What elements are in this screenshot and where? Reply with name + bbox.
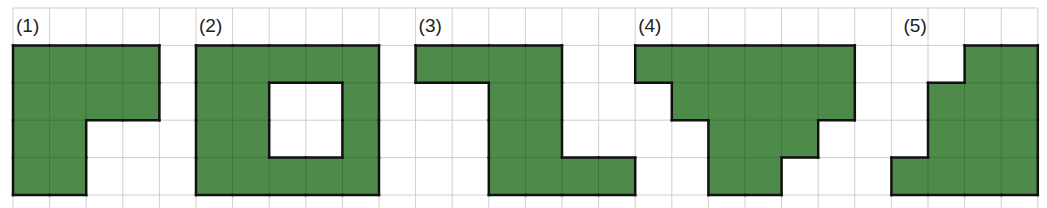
shaded-cell <box>233 120 270 158</box>
shaded-cell <box>928 83 965 121</box>
shaded-cell <box>50 120 87 158</box>
shaded-cell <box>745 158 782 196</box>
shaded-cell <box>233 83 270 121</box>
shaded-cell <box>782 83 819 121</box>
shaded-cell <box>672 83 709 121</box>
shaded-cell <box>342 158 379 196</box>
shaded-cell <box>196 158 233 196</box>
shaded-cell <box>196 45 233 83</box>
figure-label: (5) <box>904 16 927 35</box>
shaded-cell <box>86 83 123 121</box>
shaded-cell <box>708 45 745 83</box>
shaded-cell <box>818 45 855 83</box>
shaded-cell <box>965 45 1002 83</box>
shaded-cell <box>342 120 379 158</box>
shaded-cell <box>599 158 636 196</box>
shaded-cell <box>1001 45 1038 83</box>
shaded-cell <box>1001 120 1038 158</box>
shaded-cell <box>965 83 1002 121</box>
shaded-cell <box>196 83 233 121</box>
shaded-cell <box>635 45 672 83</box>
shaded-cell <box>342 45 379 83</box>
shaded-cell <box>782 120 819 158</box>
figure-label: (1) <box>16 16 39 35</box>
shaded-cell <box>306 45 343 83</box>
shaded-cell <box>891 158 928 196</box>
shaded-cell <box>196 120 233 158</box>
shaded-cell <box>233 158 270 196</box>
shaded-cell <box>50 83 87 121</box>
shaded-cell <box>525 120 562 158</box>
shaded-cell <box>269 45 306 83</box>
shaded-cell <box>818 83 855 121</box>
shaded-cell <box>416 45 453 83</box>
shaded-cell <box>525 83 562 121</box>
shaded-cell <box>525 45 562 83</box>
shaded-cell <box>965 120 1002 158</box>
shaded-cell <box>13 83 50 121</box>
shaded-cell <box>489 83 526 121</box>
shaded-cell <box>745 120 782 158</box>
shaded-cell <box>745 83 782 121</box>
shaded-cell <box>928 120 965 158</box>
shaded-cell <box>525 158 562 196</box>
shaded-cell <box>13 158 50 196</box>
shaded-cell <box>342 83 379 121</box>
shaded-cell <box>1001 83 1038 121</box>
shaded-cell <box>13 45 50 83</box>
shaded-cell <box>708 83 745 121</box>
shaded-cell <box>745 45 782 83</box>
shaded-cell <box>86 45 123 83</box>
figure-label: (4) <box>638 16 661 35</box>
shaded-cell <box>50 158 87 196</box>
shaded-cell <box>928 158 965 196</box>
shaded-cell <box>489 120 526 158</box>
figure-label: (3) <box>419 16 442 35</box>
figure-label: (2) <box>199 16 222 35</box>
shaded-cell <box>782 45 819 83</box>
shaded-cell <box>269 158 306 196</box>
shaded-cell <box>672 45 709 83</box>
shaded-cell <box>233 45 270 83</box>
shaded-cell <box>306 158 343 196</box>
figure-1 <box>13 45 160 195</box>
shaded-cell <box>123 45 160 83</box>
shaded-cell <box>965 158 1002 196</box>
shaded-cell <box>708 158 745 196</box>
shaded-cell <box>123 83 160 121</box>
shaded-cell <box>562 158 599 196</box>
shaded-cell <box>489 158 526 196</box>
shaded-cell <box>708 120 745 158</box>
shaded-cell <box>452 45 489 83</box>
shaded-cell <box>50 45 87 83</box>
grid-diagram <box>0 0 1047 208</box>
shaded-cell <box>489 45 526 83</box>
shaded-cell <box>1001 158 1038 196</box>
shaded-cell <box>13 120 50 158</box>
